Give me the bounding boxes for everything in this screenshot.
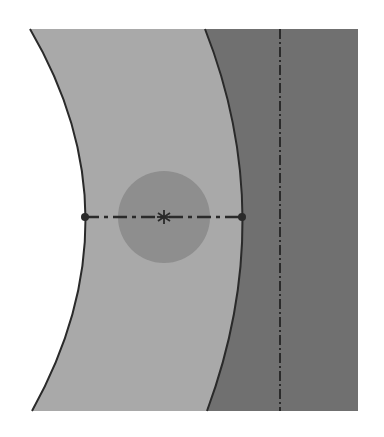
cross-section-diagram [0,0,384,437]
left-endpoint-dot[interactable] [81,213,89,221]
right-endpoint-dot[interactable] [238,213,246,221]
